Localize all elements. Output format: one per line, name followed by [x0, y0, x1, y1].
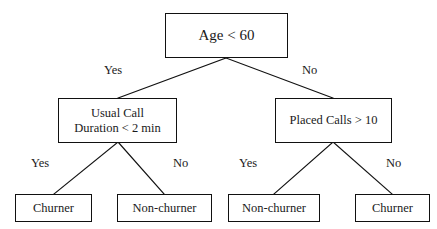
node-placed-calls-label: Placed Calls > 10: [290, 113, 378, 128]
edge-label-left-no: No: [173, 156, 188, 171]
edge-label-right-yes: Yes: [239, 156, 257, 171]
node-placed-calls: Placed Calls > 10: [275, 98, 392, 143]
edge-root-to-left: [118, 58, 226, 98]
edge-left-to-leaf1: [54, 142, 118, 194]
node-root-label: Age < 60: [199, 27, 255, 45]
node-leaf-non-churner-right-label: Non-churner: [242, 201, 306, 216]
node-leaf-churner-left-label: Churner: [33, 201, 74, 216]
node-leaf-non-churner-left-label: Non-churner: [133, 201, 197, 216]
node-root-age: Age < 60: [165, 13, 288, 58]
node-usual-call-duration: Usual Call Duration < 2 min: [58, 98, 177, 143]
node-leaf-churner-right: Churner: [355, 194, 430, 222]
node-leaf-churner-left: Churner: [15, 194, 92, 222]
node-leaf-non-churner-right: Non-churner: [228, 194, 320, 222]
node-leaf-churner-right-label: Churner: [372, 201, 413, 216]
edge-label-root-no: No: [302, 63, 317, 78]
node-leaf-non-churner-left: Non-churner: [117, 194, 212, 222]
edge-label-left-yes: Yes: [31, 156, 49, 171]
edge-label-right-no: No: [386, 156, 401, 171]
edge-right-to-leaf3: [274, 142, 333, 194]
decision-tree-diagram: Age < 60 Usual Call Duration < 2 min Pla…: [0, 0, 437, 229]
edge-left-to-leaf2: [118, 142, 164, 194]
edge-label-root-yes: Yes: [104, 63, 122, 78]
node-usual-call-duration-label: Usual Call Duration < 2 min: [74, 106, 161, 136]
edge-right-to-leaf4: [333, 142, 392, 194]
